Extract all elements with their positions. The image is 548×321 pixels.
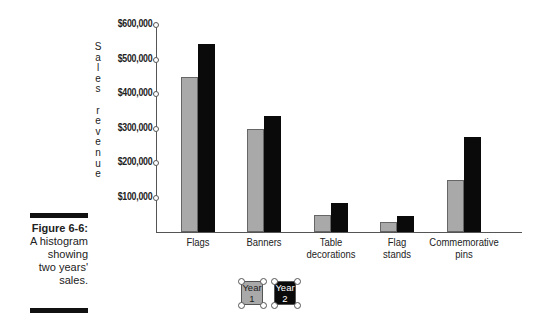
legend-year2-label-line1: Year: [275, 283, 295, 294]
bar-year2: [198, 44, 215, 232]
legend-handle-icon: [238, 278, 245, 285]
legend: Year 1 Year 2: [238, 278, 308, 318]
figure-caption: Figure 6-6: A histogram showing two year…: [20, 222, 88, 287]
legend-handle-icon: [260, 278, 267, 285]
y-tick-marker-icon: [153, 22, 159, 28]
plot-area: [0, 0, 548, 240]
bar-year2: [264, 116, 281, 232]
bar-year2: [464, 137, 481, 232]
caption-line: showing: [20, 248, 88, 261]
caption-line: sales.: [20, 274, 88, 287]
caption-line: A histogram: [20, 235, 88, 248]
legend-year2-label-line2: 2: [275, 294, 295, 305]
legend-handle-icon: [271, 278, 278, 285]
bar-year1: [181, 77, 198, 232]
bar-year1: [380, 222, 397, 232]
bar-year1: [447, 180, 464, 232]
y-tick-marker-icon: [153, 126, 159, 132]
legend-year2: Year 2: [274, 281, 296, 305]
x-axis-line: [156, 232, 522, 233]
legend-handle-icon: [271, 302, 278, 309]
legend-handle-icon: [260, 302, 267, 309]
bar-year2: [397, 216, 414, 232]
legend-handle-icon: [294, 278, 301, 285]
legend-year1-label-line2: 1: [242, 294, 262, 305]
x-category-label: Commemorativepins: [424, 236, 505, 260]
legend-handle-icon: [294, 302, 301, 309]
caption-top-rule: [30, 213, 88, 218]
y-tick-marker-icon: [153, 57, 159, 63]
y-tick-marker-icon: [153, 91, 159, 97]
y-tick-marker-icon: [153, 195, 159, 201]
legend-year1-label-line1: Year: [242, 283, 262, 294]
legend-year1: Year 1: [241, 281, 263, 305]
bar-year1: [247, 129, 264, 233]
bar-year2: [331, 203, 348, 232]
caption-line: two years': [20, 261, 88, 274]
bar-year1: [314, 215, 331, 232]
caption-bottom-rule: [30, 308, 88, 313]
y-tick-marker-icon: [153, 160, 159, 166]
legend-handle-icon: [238, 302, 245, 309]
figure-number: Figure 6-6:: [20, 222, 88, 235]
